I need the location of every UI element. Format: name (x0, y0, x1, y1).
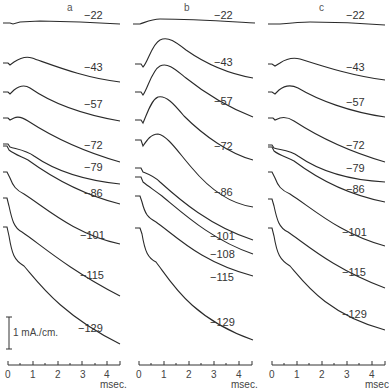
panel-b-labels: −22 −43 −57 −72 −86 −101 −108 −115 −129 (210, 9, 235, 328)
tick-1: 1 (30, 369, 36, 380)
panel-c-traces (268, 22, 385, 330)
label-b-101: −101 (210, 230, 235, 242)
tick-3: 3 (211, 369, 217, 380)
label-a-79: −79 (84, 161, 103, 173)
tick-3: 3 (80, 369, 86, 380)
tick-1: 1 (161, 369, 167, 380)
panel-label-a: a (67, 2, 73, 13)
label-a-72: −72 (84, 139, 103, 151)
label-a-115: −115 (80, 269, 104, 281)
scale-bar-label: 1 mA./cm. (13, 327, 58, 338)
tick-2: 2 (186, 369, 192, 380)
tick-3: 3 (344, 369, 350, 380)
panel-b-traces (133, 19, 255, 340)
label-b-129: −129 (210, 316, 235, 328)
tick-0: 0 (136, 369, 142, 380)
label-b-115: −115 (210, 271, 234, 283)
label-c-86: −86 (346, 183, 365, 195)
label-a-57: −57 (84, 98, 103, 110)
label-a-101: −101 (80, 229, 105, 241)
tick-2: 2 (55, 369, 61, 380)
label-c-129: −129 (342, 308, 367, 320)
x-unit-c: msec (365, 379, 389, 388)
label-c-115: −115 (342, 266, 366, 278)
tick-0: 0 (269, 369, 275, 380)
label-c-72: −72 (346, 139, 365, 151)
tick-1: 1 (294, 369, 300, 380)
label-b-22: −22 (214, 9, 233, 21)
label-c-79: −79 (346, 162, 365, 174)
label-c-57: −57 (346, 96, 365, 108)
tick-2: 2 (319, 369, 325, 380)
label-b-57: −57 (214, 95, 233, 107)
label-a-43: −43 (84, 61, 103, 73)
label-c-43: −43 (346, 61, 365, 73)
label-a-86: −86 (84, 187, 103, 199)
label-c-101: −101 (342, 226, 367, 238)
x-unit-b: msec. (231, 379, 258, 388)
label-b-86: −86 (214, 186, 233, 198)
panel-label-b: b (184, 2, 190, 13)
label-b-108: −108 (210, 248, 235, 260)
label-a-22: −22 (84, 9, 103, 21)
panel-b-x-axis: 0 1 2 3 4 msec. (136, 361, 258, 388)
membrane-current-figure: a b c −22 −43 −57 −72 −79 −86 −101 −115 … (0, 0, 389, 388)
label-c-22: −22 (346, 9, 365, 21)
scale-bar: 1 mA./cm. (6, 317, 58, 349)
panel-c-labels: −22 −43 −57 −72 −79 −86 −101 −115 −129 (342, 9, 367, 320)
tick-0: 0 (5, 369, 11, 380)
label-b-72: −72 (214, 140, 233, 152)
label-a-129: −129 (78, 322, 103, 334)
x-unit-a: msec. (100, 379, 127, 388)
panel-label-c: c (319, 2, 324, 13)
panel-c-x-axis: 0 1 2 3 4 msec (269, 361, 389, 388)
panel-a-x-axis: 0 1 2 3 4 msec. (5, 361, 127, 388)
label-b-43: −43 (214, 56, 233, 68)
